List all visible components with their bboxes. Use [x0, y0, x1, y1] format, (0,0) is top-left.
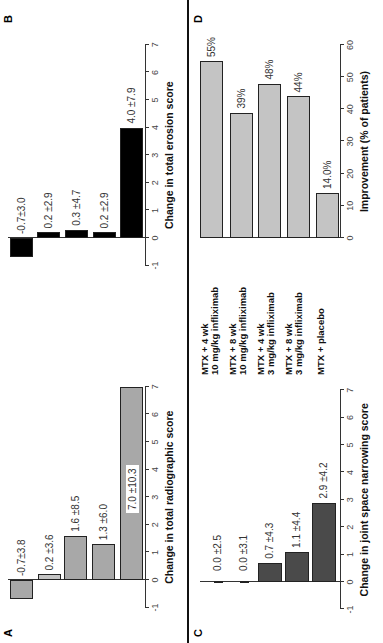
- axis-tick: [145, 71, 149, 72]
- axis-tick: [145, 469, 149, 470]
- axis-tick: [340, 44, 344, 45]
- axis-tick-label: 1: [150, 208, 160, 213]
- axis-tick: [145, 413, 149, 414]
- axis-tick-label: 50: [345, 72, 355, 82]
- axis-tick: [340, 526, 344, 527]
- axis-tick: [340, 237, 344, 238]
- value-label: 39%: [236, 89, 247, 109]
- group-label-line2: 3 mg/kg infliximab: [294, 292, 304, 375]
- axis-tick: [145, 441, 149, 442]
- axis-tick-label: 7: [345, 388, 355, 393]
- axis-tick: [145, 237, 149, 238]
- axis-tick: [145, 579, 149, 580]
- axis-tick: [340, 173, 344, 174]
- axis-tick-label: 2: [150, 180, 160, 185]
- panel-b-letter: B: [2, 15, 14, 23]
- axis-tick-label: 4: [150, 467, 160, 472]
- group-label-line2: 10 mg/kg infliximab: [210, 287, 220, 375]
- value-label: 48%: [264, 60, 275, 80]
- value-label: 0.2 ±2.9: [43, 192, 54, 228]
- axis-tick-label: -1: [150, 604, 160, 612]
- axis-tick-label: 0: [150, 577, 160, 582]
- axis-tick: [145, 496, 149, 497]
- bar: [258, 84, 281, 238]
- axis-tick: [145, 209, 149, 210]
- value-label: 0.0 ±3.1: [238, 535, 249, 571]
- value-label: 14.0%: [322, 161, 333, 189]
- axis-tick-label: 3: [150, 495, 160, 500]
- value-label: -0.7±3.8: [16, 539, 27, 576]
- axis-tick: [145, 551, 149, 552]
- bar: [10, 238, 33, 257]
- group-label: MTX + 4 wk3 mg/kg infliximab: [256, 292, 276, 375]
- axis-tick-label: 1: [150, 550, 160, 555]
- value-label: 0.3 ±4.7: [71, 190, 82, 226]
- value-label: 7.0 ±10.3: [126, 465, 139, 513]
- axis-tick-label: -1: [345, 605, 355, 613]
- value-label: 0.0 ±2.5: [212, 535, 223, 571]
- group-label: MTX + 4 wk10 mg/kg infliximab: [200, 287, 220, 375]
- value-label: 0.2 ±2.9: [99, 192, 110, 228]
- axis-tick-label: 3: [150, 153, 160, 158]
- group-label: MTX + 8 wk10 mg/kg infliximab: [228, 287, 248, 375]
- axis-tick-label: 20: [345, 169, 355, 179]
- value-label: 44%: [293, 72, 304, 92]
- panel-c-letter: C: [192, 629, 204, 637]
- axis-tick: [340, 108, 344, 109]
- axis-tick-label: 2: [345, 525, 355, 530]
- value-label: 4.0 ±7.9: [126, 88, 137, 124]
- axis-tick-label: 10: [345, 201, 355, 211]
- panel-b-x-axis: [145, 45, 146, 266]
- bar: [230, 113, 253, 238]
- axis-tick: [340, 417, 344, 418]
- panel-d-axis-title: Improvement (% of patients): [358, 71, 370, 212]
- axis-tick: [145, 99, 149, 100]
- bar: [285, 552, 309, 582]
- axis-tick: [340, 608, 344, 609]
- axis-tick: [145, 127, 149, 128]
- axis-tick-label: 4: [345, 470, 355, 475]
- group-label-line2: 10 mg/kg infliximab: [238, 287, 248, 375]
- axis-tick-label: 60: [345, 40, 355, 50]
- bar: [10, 580, 33, 599]
- axis-tick: [145, 607, 149, 608]
- value-label: 1.3 ±6.0: [98, 504, 109, 540]
- axis-tick-label: 6: [345, 415, 355, 420]
- group-label: MTX + placebo: [316, 308, 326, 375]
- axis-tick-label: 6: [150, 70, 160, 75]
- value-label: 2.9 ±4.2: [318, 462, 329, 498]
- axis-tick: [340, 581, 344, 582]
- axis-tick-label: 0: [345, 579, 355, 584]
- axis-tick-label: 4: [150, 125, 160, 130]
- axis-tick-label: 7: [150, 384, 160, 389]
- bar: [93, 232, 116, 238]
- panel-b-axis-title: Change in total erosion score: [163, 81, 175, 229]
- axis-tick-label: 0: [345, 235, 355, 240]
- axis-tick: [145, 265, 149, 266]
- axis-tick: [340, 389, 344, 390]
- axis-tick-label: 7: [150, 42, 160, 47]
- axis-tick-label: 40: [345, 104, 355, 114]
- group-label-line2: 3 mg/kg infliximab: [266, 292, 276, 375]
- axis-tick-label: 6: [150, 412, 160, 417]
- group-label: MTX + 8 wk3 mg/kg infliximab: [284, 292, 304, 375]
- bar: [64, 536, 87, 580]
- axis-tick: [340, 76, 344, 77]
- panel-d-letter: D: [192, 15, 204, 23]
- axis-tick: [340, 499, 344, 500]
- bar: [92, 544, 115, 580]
- bar: [38, 574, 61, 580]
- axis-tick-label: 5: [150, 97, 160, 102]
- axis-tick: [340, 141, 344, 142]
- bar: [258, 563, 282, 582]
- bar: [312, 503, 336, 582]
- value-label: 1.6 ±8.5: [70, 496, 81, 532]
- bar: [37, 232, 60, 238]
- bar: [120, 128, 143, 238]
- axis-tick-label: 5: [345, 442, 355, 447]
- axis-tick: [145, 154, 149, 155]
- panel-a-letter: A: [2, 629, 14, 637]
- bar: [200, 61, 223, 238]
- axis-tick-label: -1: [150, 262, 160, 270]
- value-label: 1.1 ±4.4: [291, 512, 302, 548]
